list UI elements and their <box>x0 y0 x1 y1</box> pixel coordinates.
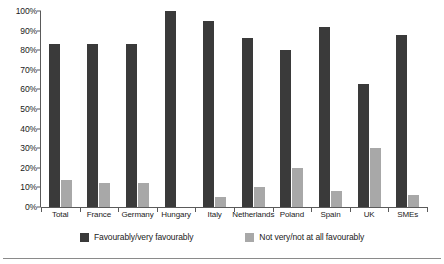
bar-unfavourable <box>254 187 265 207</box>
x-axis-tick-label: Italy <box>208 210 222 219</box>
bar-group <box>234 11 273 207</box>
x-axis-tick-mark <box>118 207 119 212</box>
bar-unfavourable <box>292 168 303 207</box>
bar-group <box>118 11 157 207</box>
x-axis-tick-mark <box>350 207 351 212</box>
bar-group <box>157 11 196 207</box>
dark-swatch <box>80 233 89 242</box>
bar-favourable <box>203 21 214 207</box>
x-axis-tick-label: Spain <box>321 210 341 219</box>
bar-favourable <box>49 44 60 207</box>
bar-group <box>350 11 389 207</box>
bar-group <box>311 11 350 207</box>
bar-favourable <box>280 50 291 207</box>
bar-favourable <box>396 35 407 207</box>
bar-unfavourable <box>408 195 419 207</box>
x-axis-tick-mark <box>195 207 196 212</box>
plot-area <box>41 11 427 207</box>
light-swatch <box>245 233 254 242</box>
bar-unfavourable <box>138 183 149 207</box>
x-axis-tick-label: Netherlands <box>232 210 274 219</box>
x-axis-tick-label: Total <box>52 210 68 219</box>
x-axis-tick-label: Hungary <box>161 210 191 219</box>
x-axis-tick-mark <box>311 207 312 212</box>
legend-label: Not very/not at all favourably <box>259 232 364 242</box>
bar-group <box>388 11 427 207</box>
bar-unfavourable <box>370 148 381 207</box>
bar-group <box>273 11 312 207</box>
bar-group <box>80 11 119 207</box>
x-axis-tick-label: SMEs <box>397 210 418 219</box>
x-axis-tick-label: Poland <box>280 210 304 219</box>
x-axis-tick-mark <box>80 207 81 212</box>
x-axis-tick-mark <box>388 207 389 212</box>
x-axis-tick-mark <box>427 207 428 212</box>
bar-chart: 0%10%20%30%40%50%60%70%80%90%100% TotalF… <box>0 0 444 264</box>
bar-favourable <box>126 44 137 207</box>
bar-group <box>41 11 80 207</box>
x-axis-tick-label: France <box>87 210 111 219</box>
x-axis-tick-label: Germany <box>121 210 153 219</box>
chart-legend: Favourably/very favourablyNot very/not a… <box>0 232 444 242</box>
bar-favourable <box>319 27 330 207</box>
bar-unfavourable <box>215 197 226 207</box>
bar-favourable <box>87 44 98 207</box>
x-axis-tick-mark <box>157 207 158 212</box>
bar-group <box>195 11 234 207</box>
bar-favourable <box>358 84 369 207</box>
bar-favourable <box>165 11 176 207</box>
bar-unfavourable <box>331 191 342 207</box>
legend-label: Favourably/very favourably <box>94 232 193 242</box>
legend-item: Favourably/very favourably <box>80 232 193 242</box>
bottom-divider <box>3 258 441 259</box>
x-axis-tick-mark <box>41 207 42 212</box>
legend-item: Not very/not at all favourably <box>245 232 364 242</box>
bar-unfavourable <box>99 183 110 207</box>
x-axis-tick-label: UK <box>364 210 375 219</box>
bar-unfavourable <box>61 180 72 207</box>
bar-favourable <box>242 38 253 207</box>
